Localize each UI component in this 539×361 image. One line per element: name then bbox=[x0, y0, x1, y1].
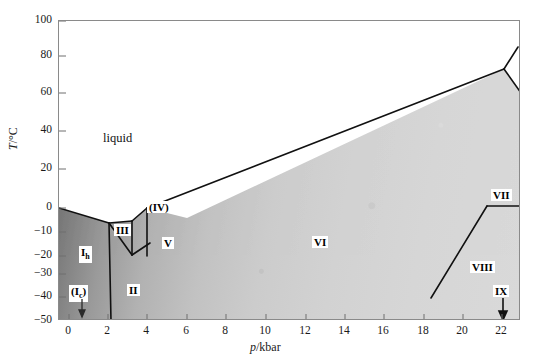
y-tick-marks bbox=[59, 21, 520, 320]
x-tick-label-2: 2 bbox=[93, 324, 121, 336]
y-tick-label-0: 0 bbox=[14, 200, 52, 212]
y-tick-label-20: 20 bbox=[14, 161, 52, 173]
y-tick-label-80: 80 bbox=[14, 48, 52, 60]
y-tick-label-100: 100 bbox=[14, 13, 52, 25]
y-tick-label-m40: −40 bbox=[14, 289, 52, 301]
x-tick-label-6: 6 bbox=[172, 324, 200, 336]
y-tick-label-m50: −50 bbox=[14, 313, 52, 325]
phase-diagram-figure: liquid Ih (Ic) III II (IV) V VI VII VIII… bbox=[0, 0, 539, 361]
x-tick-label-0: 0 bbox=[54, 324, 82, 336]
x-axis-unit: /kbar bbox=[256, 340, 281, 354]
y-axis-unit: /°C bbox=[6, 127, 20, 143]
x-tick-label-16: 16 bbox=[369, 324, 397, 336]
plot-area: liquid Ih (Ic) III II (IV) V VI VII VIII… bbox=[58, 20, 520, 320]
y-tick-label-m30: −30 bbox=[14, 266, 52, 278]
x-tick-label-20: 20 bbox=[448, 324, 476, 336]
x-tick-label-18: 18 bbox=[409, 324, 437, 336]
y-tick-label-m20: −20 bbox=[14, 248, 52, 260]
x-tick-label-22: 22 bbox=[487, 324, 515, 336]
x-tick-label-14: 14 bbox=[330, 324, 358, 336]
x-tick-label-12: 12 bbox=[291, 324, 319, 336]
x-tick-label-10: 10 bbox=[251, 324, 279, 336]
x-axis-title: p/kbar bbox=[250, 340, 281, 355]
y-axis-symbol: T bbox=[6, 143, 20, 150]
x-tick-label-4: 4 bbox=[132, 324, 160, 336]
x-tick-label-8: 8 bbox=[211, 324, 239, 336]
y-axis-title: T/°C bbox=[6, 127, 21, 150]
y-tick-label-60: 60 bbox=[14, 85, 52, 97]
y-tick-label-m10: −10 bbox=[14, 224, 52, 236]
